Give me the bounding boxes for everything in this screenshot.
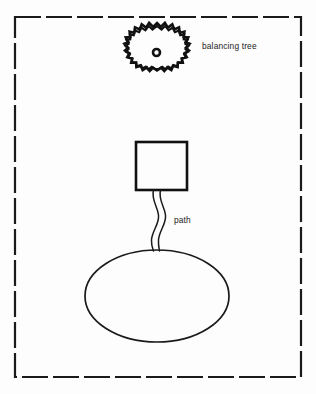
tree-label: balancing tree xyxy=(202,41,257,51)
diagram-canvas: balancing tree path xyxy=(0,0,316,394)
building-square xyxy=(136,142,187,190)
balancing-tree-symbol xyxy=(124,23,189,71)
path-lines xyxy=(151,190,165,251)
path-edge-left xyxy=(151,190,158,251)
site-plan-drawing: balancing tree path xyxy=(0,0,316,394)
pond-ellipse xyxy=(85,250,229,342)
path-edge-right xyxy=(158,190,165,251)
path-label: path xyxy=(174,215,191,225)
tree-trunk-icon xyxy=(153,49,160,56)
